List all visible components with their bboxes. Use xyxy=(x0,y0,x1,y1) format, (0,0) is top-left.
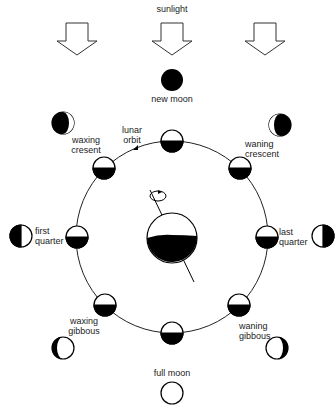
full-moon-label: full moon xyxy=(145,368,199,378)
orbit-moon-first-quarter xyxy=(66,226,88,248)
orbit-moon-full xyxy=(161,322,183,344)
sunlight-label: sunlight xyxy=(150,4,194,14)
waxing-gibbous-label: waxing gibbous xyxy=(64,316,104,336)
new-moon-icon xyxy=(161,69,183,91)
waning-crescent-icon xyxy=(269,114,291,136)
last-quarter-icon xyxy=(312,225,334,247)
sunlight-arrow-center xyxy=(152,23,192,55)
waxing-gibbous-icon xyxy=(52,337,74,359)
orbit-moon-waning-gibbous xyxy=(228,294,250,316)
new-moon-label: new moon xyxy=(145,94,199,104)
full-moon-icon xyxy=(161,382,183,404)
waning-gibbous-label: waning gibbous xyxy=(239,321,271,341)
sunlight-arrow-left xyxy=(57,23,97,55)
orbit-moon-new xyxy=(161,130,183,152)
orbit-moon-waning-crescent xyxy=(229,157,251,179)
moon-phases-diagram xyxy=(0,0,335,407)
lunar-orbit-label: lunar orbit xyxy=(115,125,149,145)
first-quarter-label: first quarter xyxy=(35,226,64,246)
waning-crescent-label: waning crescent xyxy=(245,139,279,159)
first-quarter-icon xyxy=(10,225,32,247)
orbit-moon-waxing-gibbous xyxy=(94,294,116,316)
orbit-moon-waxing-crescent xyxy=(93,157,115,179)
orbit-moon-last-quarter xyxy=(256,226,278,248)
orbit-direction-arrow xyxy=(133,145,138,150)
earth-icon xyxy=(147,190,197,282)
waxing-crescent-label: waxing cresent xyxy=(66,135,106,155)
waxing-crescent-icon xyxy=(52,112,74,134)
sunlight-arrow-right xyxy=(245,23,285,55)
last-quarter-label: last quarter xyxy=(279,227,308,247)
